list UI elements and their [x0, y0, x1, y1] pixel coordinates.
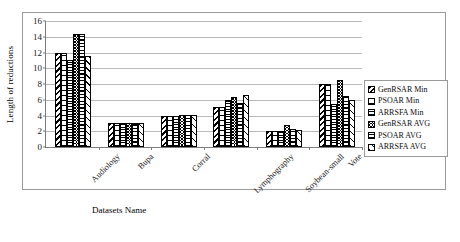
y-axis-title: Length of reductions — [4, 21, 16, 147]
x-tick-mark — [99, 147, 100, 150]
plot-area: 0246810121416 — [45, 21, 362, 148]
y-tick-mark — [43, 147, 46, 148]
legend-label: PSOAR AVG — [378, 132, 422, 140]
bar-chart-figure: Length of reductions 0246810121416 Audio… — [0, 0, 460, 242]
y-tick-label: 2 — [38, 127, 43, 136]
legend-item: PSOAR Min — [368, 96, 445, 107]
legend-label: GenRSAR AVG — [378, 120, 430, 128]
legend-label: GenRSAR Min — [378, 86, 428, 94]
bar — [243, 95, 249, 147]
x-tick-mark — [257, 147, 258, 150]
y-tick-mark — [43, 131, 46, 132]
y-tick-mark — [43, 84, 46, 85]
y-tick-label: 8 — [38, 80, 43, 89]
x-tick-mark — [204, 147, 205, 150]
bar-group — [100, 21, 153, 147]
bar — [349, 100, 355, 147]
y-tick-label: 4 — [38, 111, 43, 120]
y-tick-mark — [43, 36, 46, 37]
y-tick-mark — [43, 21, 46, 22]
legend-label: ARRSFA Min — [378, 109, 423, 117]
y-tick-label: 14 — [33, 32, 42, 41]
legend-swatch — [368, 98, 375, 105]
legend-item: ARRSFA Min — [368, 107, 445, 118]
legend-item: GenRSAR Min — [368, 84, 445, 95]
legend-item: ARRSFA AVG — [368, 142, 445, 153]
legend-swatch — [368, 109, 375, 116]
legend-swatch — [368, 144, 375, 151]
x-tick-mark — [362, 147, 363, 150]
x-axis-title: Datasets Name — [92, 205, 146, 215]
x-tick-mark — [151, 147, 152, 150]
y-tick-mark — [43, 99, 46, 100]
legend-swatch — [368, 86, 375, 93]
x-tick-mark — [309, 147, 310, 150]
y-tick-mark — [43, 68, 46, 69]
legend-swatch — [368, 121, 375, 128]
bar — [138, 123, 144, 147]
y-tick-mark — [43, 115, 46, 116]
y-axis-title-text: Length of reductions — [6, 46, 15, 123]
legend-label: PSOAR Min — [378, 97, 419, 105]
legend-item: GenRSAR AVG — [368, 119, 445, 130]
bar-group — [205, 21, 258, 147]
bar-group — [310, 21, 363, 147]
bar-groups — [47, 21, 363, 147]
bar-group — [258, 21, 311, 147]
bar — [191, 115, 197, 147]
bar — [85, 56, 91, 147]
y-tick-label: 16 — [33, 17, 42, 26]
bar-group — [47, 21, 100, 147]
y-tick-label: 10 — [33, 64, 42, 73]
bar — [296, 130, 302, 147]
y-tick-label: 6 — [38, 95, 43, 104]
bar-group — [152, 21, 205, 147]
y-tick-mark — [43, 52, 46, 53]
legend-item: PSOAR AVG — [368, 130, 445, 141]
legend-swatch — [368, 132, 375, 139]
y-tick-label: 12 — [33, 48, 42, 57]
legend-label: ARRSFA AVG — [378, 143, 426, 151]
y-tick-label: 0 — [38, 143, 43, 152]
chart-legend: GenRSAR MinPSOAR MinARRSFA MinGenRSAR AV… — [364, 80, 448, 157]
